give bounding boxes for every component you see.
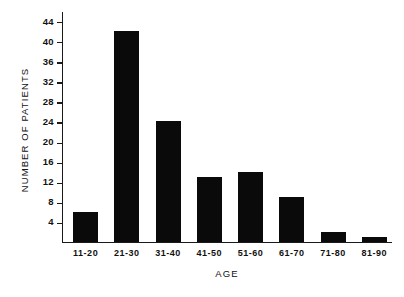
- bar: [362, 237, 387, 242]
- bar: [279, 197, 304, 242]
- x-axis-tick-label: 71-80: [313, 248, 354, 258]
- y-axis-tick-label: 40: [43, 36, 54, 47]
- x-axis-tick-label: 11-20: [65, 248, 106, 258]
- y-axis-tick: 44: [57, 22, 62, 23]
- y-axis-tick: 28: [57, 102, 62, 103]
- bar: [73, 212, 98, 242]
- y-axis-tick-label: 32: [43, 76, 54, 87]
- y-axis-tick: 16: [57, 163, 62, 164]
- y-axis-tick: 32: [57, 82, 62, 83]
- y-axis-tick: 12: [57, 183, 62, 184]
- x-axis-tick-label: 41-50: [189, 248, 230, 258]
- plot-area: 48121620242832364044 11-2021-3031-4041-5…: [62, 12, 392, 243]
- y-axis-tick-label: 12: [43, 176, 54, 187]
- y-axis-tick: 20: [57, 143, 62, 144]
- bar: [114, 31, 139, 242]
- x-axis-tick-label: 31-40: [148, 248, 189, 258]
- y-axis-tick: 36: [57, 62, 62, 63]
- bar: [321, 232, 346, 242]
- y-axis-tick-label: 44: [43, 16, 54, 27]
- y-axis-tick: 8: [57, 203, 62, 204]
- bar: [197, 177, 222, 242]
- bar-chart-figure: NUMBER OF PATIENTS 48121620242832364044 …: [0, 0, 404, 297]
- bar: [238, 172, 263, 242]
- y-axis-tick: 4: [57, 223, 62, 224]
- y-axis-title: NUMBER OF PATIENTS: [14, 15, 36, 245]
- x-axis-tick-label: 51-60: [230, 248, 271, 258]
- y-axis-tick: 24: [57, 122, 62, 123]
- y-axis-tick-label: 24: [43, 116, 54, 127]
- x-axis-tick-label: 61-70: [271, 248, 312, 258]
- y-axis-tick-label: 4: [48, 216, 54, 227]
- bar: [156, 121, 181, 242]
- x-axis-tick-label: 21-30: [106, 248, 147, 258]
- y-axis-tick-label: 36: [43, 56, 54, 67]
- x-axis-tick-label: 81-90: [354, 248, 395, 258]
- y-axis-tick: 40: [57, 42, 62, 43]
- y-axis-line: [62, 12, 63, 243]
- y-axis-tick-label: 20: [43, 136, 54, 147]
- x-axis-line: [62, 242, 392, 243]
- y-axis-tick-label: 28: [43, 96, 54, 107]
- y-axis-tick-label: 8: [48, 196, 54, 207]
- x-axis-title: AGE: [62, 268, 392, 279]
- y-axis-tick-label: 16: [43, 156, 54, 167]
